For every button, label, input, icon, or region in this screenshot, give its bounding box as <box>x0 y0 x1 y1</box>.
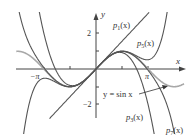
axes <box>16 18 181 118</box>
p7-label: p7(x) <box>165 125 183 136</box>
sin-arrow-line <box>139 87 164 94</box>
tick-label-neg2: −2 <box>83 100 92 109</box>
p1-label: p1(x) <box>112 20 130 31</box>
tick-label-pi: π <box>145 72 150 81</box>
x-axis-arrow-icon <box>179 67 186 72</box>
sin-label: y = sin x <box>103 89 133 99</box>
y-axis-label: y <box>100 9 105 19</box>
y-axis-arrow-icon <box>94 13 99 20</box>
tick-label-2: 2 <box>87 29 91 38</box>
chart-svg: y x 2 −2 −π π p1(x) p5(x) p3(x) p7(x) y … <box>0 0 193 136</box>
x-axis-label: x <box>175 56 180 66</box>
taylor-polynomials-figure: y x 2 −2 −π π p1(x) p5(x) p3(x) p7(x) y … <box>0 0 193 136</box>
tick-label-neg-pi: −π <box>30 72 40 81</box>
p3-label: p3(x) <box>125 112 143 123</box>
p5-label: p5(x) <box>136 38 154 49</box>
